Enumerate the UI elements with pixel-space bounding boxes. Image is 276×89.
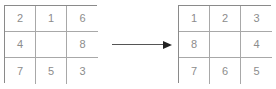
tile-cell[interactable]: 1 [36,6,67,32]
tile-cell[interactable]: 7 [179,58,210,84]
arrow-right-icon [112,41,172,49]
diagram-canvas: 2 1 6 4 8 7 5 3 1 2 3 8 4 7 6 5 [0,0,276,89]
tile-cell-empty[interactable] [210,32,241,58]
tile-cell[interactable]: 5 [241,58,272,84]
tile-cell-empty[interactable] [36,32,67,58]
tile-cell[interactable]: 4 [241,32,272,58]
tile-cell[interactable]: 5 [36,58,67,84]
tile-cell[interactable]: 2 [5,6,36,32]
tile-cell[interactable]: 2 [210,6,241,32]
tile-cell[interactable]: 8 [179,32,210,58]
puzzle-grid-initial-state: 2 1 6 4 8 7 5 3 [4,5,97,83]
tile-cell[interactable]: 1 [179,6,210,32]
arrow-shaft [112,44,164,45]
tile-cell[interactable]: 8 [67,32,98,58]
tile-cell[interactable]: 4 [5,32,36,58]
tile-cell[interactable]: 6 [210,58,241,84]
tile-cell[interactable]: 7 [5,58,36,84]
arrow-head [163,41,172,49]
tile-cell[interactable]: 6 [67,6,98,32]
tile-cell[interactable]: 3 [241,6,272,32]
tile-cell[interactable]: 3 [67,58,98,84]
puzzle-grid-goal-state: 1 2 3 8 4 7 6 5 [178,5,271,83]
